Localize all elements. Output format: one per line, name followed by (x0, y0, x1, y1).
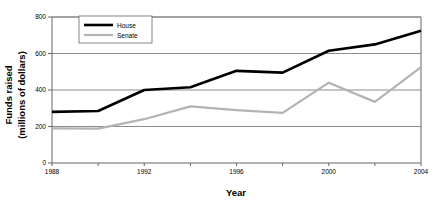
y-tick-label-200: 200 (35, 123, 46, 130)
x-tick-label-1996: 1996 (229, 168, 244, 175)
y-tick-label-800: 800 (35, 13, 46, 20)
y-tick-label-0: 0 (42, 159, 46, 166)
legend-label-senate: Senate (117, 32, 138, 39)
x-tick-label-2000: 2000 (322, 168, 337, 175)
funds-raised-line-chart: 0200400600800 19881992199620002004 Funds… (0, 0, 435, 203)
y-tick-label-400: 400 (35, 86, 46, 93)
y-tick-label-600: 600 (35, 50, 46, 57)
y-axis-title-line1: Funds raised (3, 65, 14, 124)
chart-background (0, 0, 435, 203)
legend: House Senate (79, 16, 152, 43)
x-tick-label-1988: 1988 (45, 168, 60, 175)
legend-box (79, 16, 152, 43)
legend-label-house: House (117, 22, 136, 29)
x-tick-label-1992: 1992 (137, 168, 152, 175)
x-axis-title: Year (226, 187, 246, 198)
y-axis-title-line2: (millions of dollars) (16, 51, 27, 139)
chart-container: 0200400600800 19881992199620002004 Funds… (0, 0, 435, 203)
x-tick-label-2004: 2004 (414, 168, 429, 175)
